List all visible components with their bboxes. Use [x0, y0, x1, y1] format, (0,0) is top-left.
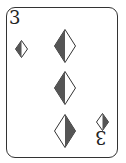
corner-rank-bottom-right: 3: [95, 128, 106, 146]
corner-rank-top-left: 3: [9, 9, 20, 27]
diamond-icon: [15, 40, 28, 58]
diamond-icon: [54, 71, 76, 105]
diamond-icon: [54, 114, 76, 148]
diamond-icon: [54, 29, 76, 63]
